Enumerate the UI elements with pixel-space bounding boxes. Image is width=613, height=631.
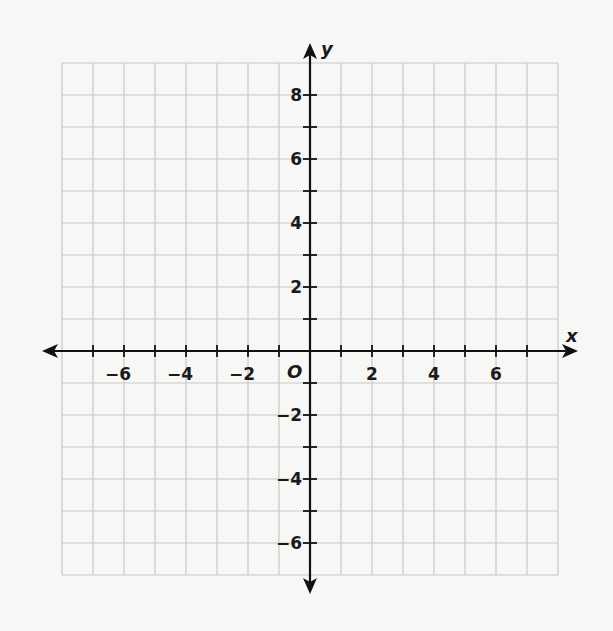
x-tick-label: 4 xyxy=(428,364,440,384)
y-tick-label: −4 xyxy=(276,469,302,489)
x-tick-label: 2 xyxy=(366,364,378,384)
y-tick-label: 8 xyxy=(290,85,302,105)
origin-label: O xyxy=(287,361,302,382)
y-tick-label: 2 xyxy=(290,277,302,297)
y-tick-label: −6 xyxy=(276,533,302,553)
y-tick-label: 6 xyxy=(290,149,302,169)
x-tick-label: −4 xyxy=(167,364,193,384)
x-axis-label: x xyxy=(565,325,579,346)
x-tick-label: −2 xyxy=(229,364,255,384)
x-tick-label: 6 xyxy=(490,364,502,384)
coordinate-plane: −6−4−22468642−2−4−6 x y O xyxy=(0,0,613,631)
x-tick-label: −6 xyxy=(105,364,131,384)
y-tick-label: −2 xyxy=(276,405,302,425)
y-tick-label: 4 xyxy=(290,213,302,233)
y-axis-label: y xyxy=(321,38,334,59)
